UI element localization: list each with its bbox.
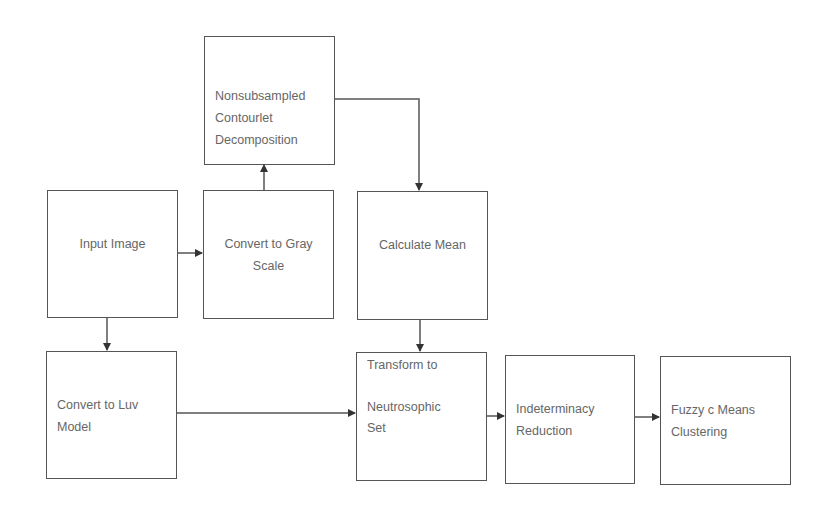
node-nsct-line-3: Decomposition	[215, 129, 328, 151]
node-nsct-line-1: Nonsubsampled	[215, 85, 328, 107]
node-calculate-mean: Calculate Mean	[357, 191, 488, 320]
node-gray-line-1: Convert to Gray	[204, 233, 333, 255]
node-nsct-line-2: Contourlet	[215, 107, 328, 129]
node-nsct: Nonsubsampled Contourlet Decomposition	[204, 36, 335, 165]
node-ind-line-2: Reduction	[516, 420, 628, 442]
node-input-image: Input Image	[47, 190, 178, 318]
node-gray-line-2: Scale	[204, 255, 333, 277]
node-fcm-line-2: Clustering	[671, 421, 784, 443]
node-luv-line-1: Convert to Luv	[57, 394, 170, 416]
node-ns-line-2	[367, 376, 480, 397]
node-fuzzy-cmeans: Fuzzy c Means Clustering	[660, 356, 791, 485]
node-mean-line-1: Calculate Mean	[358, 234, 487, 256]
node-ns-line-4: Set	[367, 418, 480, 439]
node-indeterminacy: Indeterminacy Reduction	[505, 355, 635, 484]
node-fcm-line-1: Fuzzy c Means	[671, 399, 784, 421]
node-ind-line-1: Indeterminacy	[516, 398, 628, 420]
node-convert-luv: Convert to Luv Model	[46, 351, 177, 479]
node-neutrosophic: Transform to Neutrosophic Set	[356, 352, 487, 481]
arrow-nsct-to-mean	[334, 99, 419, 190]
node-ns-line-3: Neutrosophic	[367, 397, 480, 418]
node-luv-line-2: Model	[57, 416, 170, 438]
node-convert-gray: Convert to Gray Scale	[203, 190, 334, 319]
node-ns-line-1: Transform to	[367, 355, 480, 376]
node-input-line-1: Input Image	[48, 233, 177, 255]
